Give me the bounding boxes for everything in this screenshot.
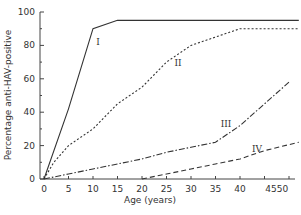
x-tick-label: 35 (210, 184, 221, 194)
x-tick-label: 15 (112, 184, 123, 194)
curve-labels: IIIIIIIV (96, 37, 262, 154)
series-IV (142, 142, 299, 179)
curve-label-IV: IV (252, 144, 263, 154)
y-tick-label: 40 (24, 107, 36, 117)
series-lines (44, 20, 299, 179)
curve-label-II: II (174, 58, 182, 68)
y-axis-label: Percentage anti-HAV-positive (3, 29, 13, 160)
x-tick-label: 40 (234, 184, 246, 194)
x-axis-label: Age (years) (124, 195, 176, 205)
x-tick-label: 25 (161, 184, 172, 194)
curve-label-I: I (96, 37, 100, 47)
y-tick-label: 20 (24, 141, 36, 151)
x-tick-label: 4550 (265, 184, 288, 194)
y-tick-label: 80 (24, 40, 36, 50)
y-tick-label: 0 (29, 174, 35, 184)
x-tick-label: 30 (185, 184, 197, 194)
series-II (44, 29, 299, 179)
series-III (44, 82, 289, 179)
curve-label-III: III (221, 119, 232, 129)
y-tick-label: 100 (18, 7, 35, 17)
series-I (44, 20, 299, 179)
x-tick-label: 20 (136, 184, 148, 194)
chart: 020406080100 05101520253035404550 IIIIII… (0, 0, 301, 215)
x-tick-label: 5 (66, 184, 72, 194)
x-tick-label: 10 (87, 184, 99, 194)
x-tick-label: 0 (41, 184, 47, 194)
y-tick-label: 60 (24, 74, 36, 84)
